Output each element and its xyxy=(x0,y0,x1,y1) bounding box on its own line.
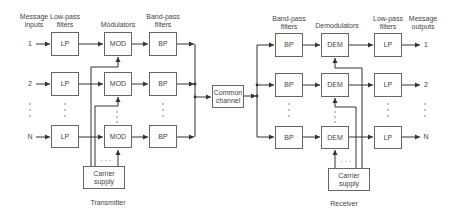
tx-lp-box-n: LP xyxy=(51,125,79,148)
rx-bp-box-2: BP xyxy=(275,73,303,97)
output-label-1: 1 xyxy=(422,41,430,49)
rx-dem-box-2: DEM xyxy=(321,73,349,97)
receiver-label: Receiver xyxy=(326,200,362,208)
rx-lp-box-2: LP xyxy=(374,73,402,97)
input-label-2: 2 xyxy=(26,80,34,88)
tx-mod-box-1: MOD xyxy=(104,32,132,56)
tx-mod-box-n: MOD xyxy=(104,125,132,148)
header-bandpass-filters-tx: Band-pass filters xyxy=(145,13,181,29)
header-lowpass-filters-rx: Low-pass filters xyxy=(372,15,404,31)
tx-bp-box-1: BP xyxy=(149,32,177,56)
tx-carrier-ellipsis: · · · xyxy=(98,157,114,165)
rx-bp-box-1: BP xyxy=(275,33,303,57)
rx-bp-box-n: BP xyxy=(275,126,303,149)
tx-bp-box-2: BP xyxy=(149,72,177,96)
rx-carrier-ellipsis: · · · xyxy=(338,158,354,166)
header-bandpass-filters-rx: Band-pass filters xyxy=(272,15,306,31)
output-label-n: N xyxy=(422,133,430,141)
header-message-outputs: Message outputs xyxy=(406,15,440,31)
tx-mod-box-2: MOD xyxy=(104,72,132,96)
tx-carrier-supply-box: Carrier supply xyxy=(83,166,125,189)
tx-bp-box-n: BP xyxy=(149,125,177,148)
header-modulators: Modulators xyxy=(97,21,139,29)
rx-dem-box-n: DEM xyxy=(321,126,349,149)
rx-dem-box-1: DEM xyxy=(321,33,349,57)
input-label-n: N xyxy=(26,133,34,141)
input-label-1: 1 xyxy=(26,40,34,48)
rx-lp-box-1: LP xyxy=(374,33,402,57)
header-demodulators: Demodulators xyxy=(312,22,362,30)
transmitter-label: Transmitter xyxy=(86,199,130,207)
output-label-2: 2 xyxy=(422,81,430,89)
common-channel-box: Common channel xyxy=(212,85,244,108)
header-lowpass-filters-tx: Low-pass filters xyxy=(48,13,82,29)
rx-carrier-supply-box: Carrier supply xyxy=(328,168,370,191)
tx-lp-box-2: LP xyxy=(51,72,79,96)
tx-lp-box-1: LP xyxy=(51,32,79,56)
rx-lp-box-n: LP xyxy=(374,126,402,149)
